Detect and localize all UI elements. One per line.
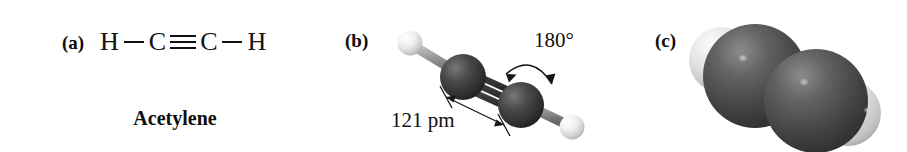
ball-and-stick-model xyxy=(300,0,630,152)
carbon-sphere-left xyxy=(440,54,486,100)
hydrogen-sphere-right xyxy=(560,115,585,140)
specular-highlight-right xyxy=(799,78,809,86)
atom-symbol-h-right: H xyxy=(247,29,266,55)
bond-angle-label: 180° xyxy=(534,30,574,51)
carbon-sphere-right xyxy=(498,82,544,128)
specular-highlight-hydrogen xyxy=(863,107,871,113)
bond-length-label: 121 pm xyxy=(391,110,455,131)
panel-c-space-filling: (c) xyxy=(630,0,907,152)
specular-highlight-left xyxy=(738,54,748,62)
compound-name: Acetylene xyxy=(100,108,250,128)
panel-b-ball-and-stick: (b) xyxy=(300,0,630,152)
acetylene-structure-figure: (a) H C C H Acetylene (b) xyxy=(0,0,907,152)
bond-single-right xyxy=(222,41,242,43)
panel-a-lewis-structure: (a) H C C H Acetylene xyxy=(0,0,300,152)
atom-symbol-h-left: H xyxy=(100,29,119,55)
bond-single-left xyxy=(124,41,144,43)
lewis-formula: H C C H xyxy=(100,26,270,58)
carbon-space-fill-right xyxy=(764,49,868,152)
space-filling-model xyxy=(630,0,907,152)
atom-symbol-c-right: C xyxy=(200,29,217,55)
bond-triple-carbon-carbon xyxy=(170,35,196,49)
panel-a-label: (a) xyxy=(62,33,84,52)
hydrogen-sphere-left xyxy=(398,31,423,56)
bond-angle-curved-arrow xyxy=(506,65,556,84)
atom-symbol-c-left: C xyxy=(149,29,166,55)
